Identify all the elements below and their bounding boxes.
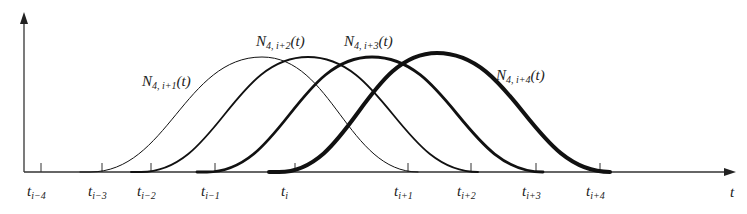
tick-label: ti−2 [137, 183, 156, 201]
basis-curve-4 [269, 53, 610, 172]
y-axis-arrow-icon [20, 12, 28, 24]
tick-label: ti+4 [586, 183, 605, 201]
basis-curve-1 [80, 57, 418, 172]
curve-label: N4, i+4(t) [495, 67, 545, 85]
curve-label: N4, i+1(t) [141, 73, 191, 91]
x-axis-arrow-icon [724, 168, 736, 176]
curve-labels: N4, i+1(t)N4, i+2(t)N4, i+3(t)N4, i+4(t) [141, 33, 545, 91]
tick-label: ti+1 [394, 183, 413, 201]
bspline-basis-diagram: t ti−4ti−3ti−2ti−1titi+1ti+2ti+3ti+4 N4,… [0, 0, 747, 214]
curve-label: N4, i+2(t) [255, 33, 305, 51]
tick-label: ti−4 [27, 183, 46, 201]
tick-label: ti−3 [88, 183, 107, 201]
curve-label: N4, i+3(t) [343, 33, 393, 51]
tick-label: ti [281, 183, 288, 201]
tick-label: ti−1 [201, 183, 220, 201]
x-axis-label: t [730, 184, 735, 200]
tick-label: ti+2 [457, 183, 476, 201]
tick-label: ti+3 [522, 183, 541, 201]
